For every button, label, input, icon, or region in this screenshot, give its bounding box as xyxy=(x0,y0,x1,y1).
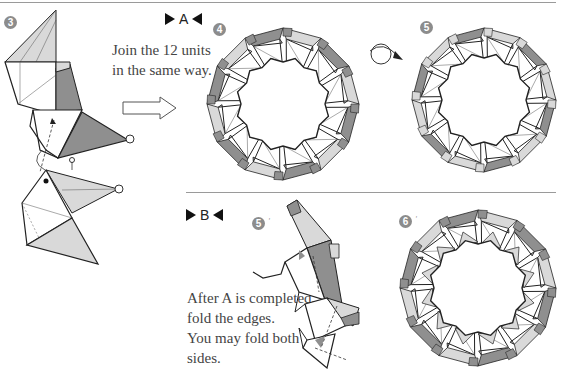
corner-accent xyxy=(484,28,493,36)
step-4-ring-diagram xyxy=(203,24,363,184)
left-pointer-icon xyxy=(213,209,223,221)
corner-accent xyxy=(274,172,283,180)
left-pointer-icon xyxy=(192,13,202,25)
upper-square xyxy=(5,62,56,115)
step-5b-edge-fold-diagram xyxy=(255,200,380,369)
corner-accent xyxy=(283,28,292,36)
turn-over-icon xyxy=(368,42,410,72)
step-5-ring-diagram xyxy=(408,22,558,177)
corner-accent xyxy=(207,95,215,104)
section-a-text: A xyxy=(179,11,188,27)
corner-accent xyxy=(400,279,409,288)
section-a-label: A xyxy=(165,11,202,27)
inner-opening xyxy=(439,55,530,146)
corner-accent xyxy=(351,104,359,113)
corner-accent xyxy=(547,288,556,297)
section-b-text: B xyxy=(200,207,209,223)
step-3-unit-diagram xyxy=(0,0,170,369)
section-b-label: B xyxy=(186,207,223,223)
inner-opening xyxy=(431,241,526,336)
corner-accent xyxy=(469,357,478,366)
right-pointer-icon xyxy=(186,209,196,221)
step-6-ring-diagram xyxy=(398,206,558,366)
corner-accent xyxy=(478,210,487,219)
corner-accent xyxy=(412,91,420,100)
corner-accent xyxy=(475,164,484,172)
section-divider xyxy=(186,192,556,193)
inner-opening xyxy=(238,59,329,150)
corner-accent xyxy=(548,100,556,109)
